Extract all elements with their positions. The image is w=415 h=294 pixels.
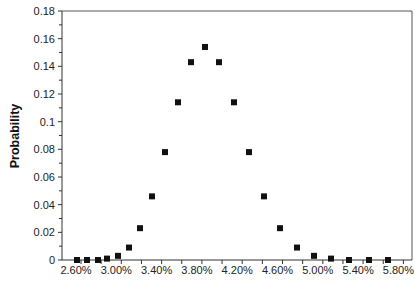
data-point-square-marker	[246, 149, 252, 155]
data-point-square-marker	[366, 257, 372, 263]
y-tick-label: 0.02	[34, 226, 55, 238]
x-tick-label: 3.40%	[141, 264, 172, 276]
data-point-square-marker	[84, 257, 90, 263]
y-axis-title: Probability	[8, 104, 22, 169]
data-point-square-marker	[261, 193, 267, 199]
data-point-square-marker	[95, 257, 101, 263]
y-tick-label: 0.14	[34, 60, 55, 72]
x-tick-label: 5.00%	[302, 264, 333, 276]
data-point-square-marker	[149, 193, 155, 199]
data-point-square-marker	[231, 99, 237, 105]
y-tick-label: 0.1	[40, 116, 55, 128]
x-tick-label: 3.80%	[181, 264, 212, 276]
data-point-square-marker	[104, 256, 110, 262]
y-axis-ticks: 00.020.040.060.080.10.120.140.160.18	[34, 5, 62, 266]
data-point-square-marker	[175, 99, 181, 105]
y-tick-label: 0	[49, 254, 55, 266]
data-point-square-marker	[74, 257, 80, 263]
data-point-square-marker	[277, 225, 283, 231]
y-tick-label: 0.12	[34, 88, 55, 100]
data-point-square-marker	[115, 253, 121, 259]
data-point-square-marker	[346, 257, 352, 263]
y-tick-label: 0.06	[34, 171, 55, 183]
y-tick-label: 0.18	[34, 5, 55, 17]
data-point-square-marker	[188, 59, 194, 65]
x-tick-label: 3.00%	[101, 264, 132, 276]
data-point-square-marker	[294, 245, 300, 251]
x-tick-label: 5.40%	[342, 264, 373, 276]
data-point-square-marker	[311, 253, 317, 259]
x-tick-label: 4.20%	[222, 264, 253, 276]
data-point-square-marker	[385, 257, 391, 263]
x-tick-label: 2.60%	[60, 264, 91, 276]
data-points	[74, 44, 391, 263]
x-tick-label: 5.80%	[383, 264, 414, 276]
data-point-square-marker	[126, 245, 132, 251]
plot-area	[62, 11, 412, 260]
data-point-square-marker	[328, 256, 334, 262]
x-tick-label: 4.60%	[262, 264, 293, 276]
y-tick-label: 0.08	[34, 143, 55, 155]
y-tick-label: 0.04	[34, 199, 55, 211]
data-point-square-marker	[202, 44, 208, 50]
x-axis-ticks: 2.60%3.00%3.40%3.80%4.20%4.60%5.00%5.40%…	[60, 260, 414, 276]
data-point-square-marker	[137, 225, 143, 231]
probability-scatter-chart: 00.020.040.060.080.10.120.140.160.18 2.6…	[0, 0, 415, 294]
data-point-square-marker	[216, 59, 222, 65]
data-point-square-marker	[162, 149, 168, 155]
y-tick-label: 0.16	[34, 33, 55, 45]
